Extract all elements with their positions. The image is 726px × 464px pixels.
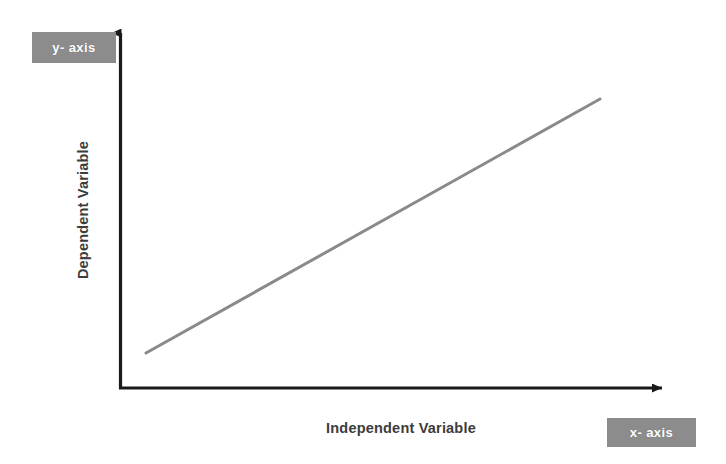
y-axis-callout-label: y- axis (52, 40, 95, 55)
x-axis-callout-label: x- axis (630, 425, 673, 440)
x-axis-title: Independent Variable (326, 420, 476, 436)
y-axis-callout-badge: y- axis (32, 32, 116, 63)
chart-figure: y- axis x- axis Dependent Variable Indep… (0, 0, 726, 464)
axis-system (0, 0, 726, 464)
x-axis-callout-badge: x- axis (607, 418, 696, 447)
trend-line (146, 99, 600, 353)
y-axis-title: Dependent Variable (75, 141, 91, 279)
